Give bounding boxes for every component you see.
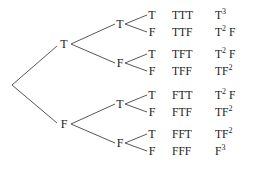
outcome-label: TFT: [172, 48, 192, 60]
leaf-node: F: [149, 145, 156, 157]
power-expression: TF2: [215, 128, 232, 140]
node-level1-t: T: [60, 38, 67, 50]
outcome-label: TFF: [172, 65, 192, 77]
power-expression: T2 F: [215, 89, 235, 101]
outcome-label: FTT: [172, 89, 192, 101]
leaf-node: T: [148, 128, 155, 140]
node-level1-f: F: [61, 118, 68, 130]
node-level2-tf: F: [117, 57, 124, 69]
leaf-node: T: [148, 9, 155, 21]
leaf-node: F: [149, 65, 156, 77]
node-level2-ft: T: [116, 98, 123, 110]
leaf-node: T: [148, 48, 155, 60]
outcome-label: FTF: [172, 106, 192, 118]
power-expression: T3: [215, 9, 226, 21]
outcome-label: TTF: [172, 26, 192, 38]
power-expression: T2 F: [215, 48, 235, 60]
outcome-label: FFT: [172, 128, 192, 140]
node-level2-ff: F: [117, 137, 124, 149]
power-expression: TF2: [215, 65, 232, 77]
power-expression: T2 F: [215, 26, 235, 38]
node-level2-tt: T: [116, 18, 123, 30]
outcome-label: FFF: [172, 145, 191, 157]
leaf-node: F: [149, 106, 156, 118]
leaf-node: T: [148, 89, 155, 101]
power-expression: F3: [215, 145, 225, 157]
outcome-label: TTT: [172, 9, 193, 21]
leaf-node: F: [149, 26, 156, 38]
power-expression: TF2: [215, 106, 232, 118]
